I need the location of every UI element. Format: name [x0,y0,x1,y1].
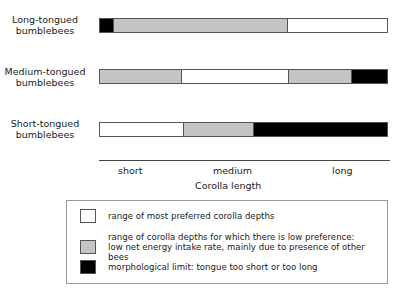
legend-swatch-white [80,209,96,223]
bar-segment-limit [352,70,387,83]
legend-item-preferred: range of most preferred corolla depths [80,209,274,223]
legend-swatch-black [80,260,96,274]
row-label-long: Long-tongued bumblebees [0,14,90,36]
bar-segment-preferred [100,123,184,136]
row-label-medium: Medium-tongued bumblebees [0,66,90,88]
x-axis-label: Corolla length [195,180,261,191]
bar-segment-low [289,70,353,83]
legend: range of most preferred corolla depths r… [66,200,388,284]
legend-item-low: range of corolla depths for which there … [80,232,387,262]
tick-short: short [118,165,142,176]
bar-medium-tongued [99,69,388,84]
row-label-short: Short-tongued bumblebees [0,118,90,140]
bar-segment-low [100,70,182,83]
bar-segment-limit [254,123,387,136]
legend-item-limit: morphological limit: tongue too short or… [80,260,318,274]
bar-segment-limit [100,19,114,32]
tick-long: long [332,165,353,176]
bar-segment-low [184,123,254,136]
bar-long-tongued [99,18,388,33]
bar-short-tongued [99,122,388,137]
legend-swatch-gray [80,240,96,254]
x-axis-line [99,160,390,161]
bar-segment-preferred [182,70,288,83]
bar-segment-preferred [288,19,387,32]
tick-medium: medium [213,165,252,176]
bar-segment-low [114,19,288,32]
